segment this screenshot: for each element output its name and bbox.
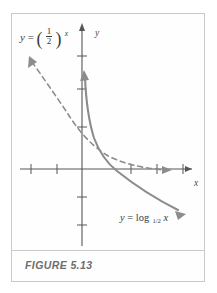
logarithm-function-label: y = log 1/2 x	[120, 213, 168, 225]
logarithm-label-base: 1/2	[152, 217, 161, 224]
plot-area: y x y = ( 1 2 ) x y = log 1/2 x	[12, 14, 205, 246]
x-axis-label: x	[194, 178, 198, 188]
y-axis-arrowhead	[79, 23, 85, 31]
exponential-curve-end-arrowhead	[162, 166, 172, 174]
x-axis-arrowhead	[185, 166, 192, 172]
exponential-label-paren-close: )	[56, 31, 62, 49]
exponential-curve	[28, 56, 172, 174]
figure-caption: FIGURE 5.13	[25, 259, 92, 271]
y-axis	[77, 23, 87, 246]
fraction-numerator: 1	[46, 27, 53, 36]
exponential-function-label: y = ( 1 2 ) x	[20, 27, 68, 49]
logarithm-curve-path	[85, 78, 178, 210]
logarithm-label-equals: =	[127, 212, 133, 223]
exponential-label-fraction: 1 2	[46, 27, 53, 47]
exponential-label-equals: =	[28, 31, 34, 43]
fraction-denominator: 2	[46, 36, 53, 46]
exponential-label-paren-open: (	[37, 31, 43, 49]
exponential-label-exponent: x	[65, 29, 68, 38]
logarithm-label-lhs: y	[120, 212, 125, 223]
exponential-curve-path	[32, 62, 166, 170]
logarithm-label-func: log	[136, 212, 149, 223]
exponential-label-lhs: y	[20, 31, 25, 43]
logarithm-curve-start-arrowhead	[80, 70, 89, 81]
figure-panel: y x y = ( 1 2 ) x y = log 1/2 x FIGURE 5…	[11, 13, 205, 282]
logarithm-curve	[80, 70, 186, 220]
y-axis-label: y	[95, 28, 99, 38]
exponential-curve-start-arrowhead	[28, 56, 37, 68]
logarithm-label-argument: x	[164, 212, 169, 223]
logarithm-curve-end-arrowhead	[175, 211, 186, 220]
caption-divider	[12, 250, 205, 251]
